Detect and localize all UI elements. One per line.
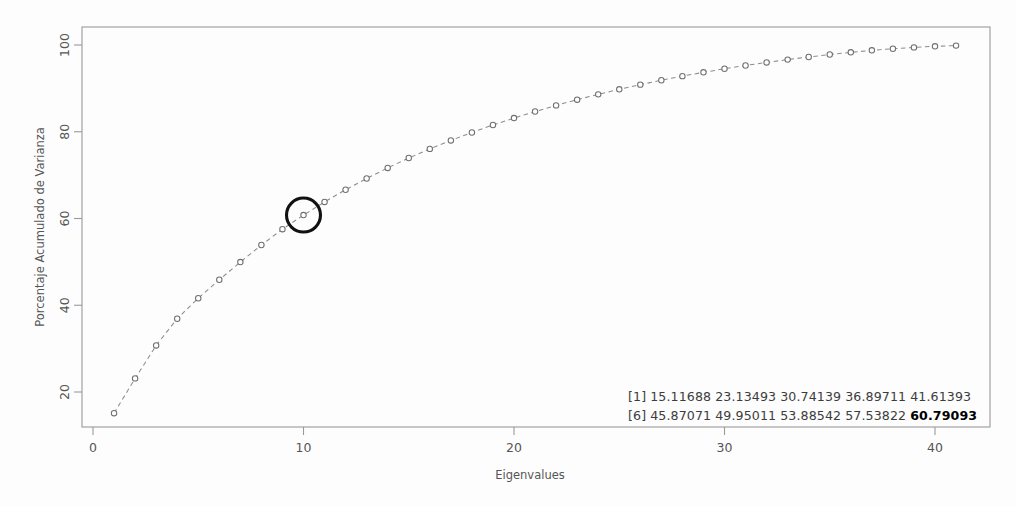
data-point-33 (785, 57, 790, 62)
console-line-2-values: 45.87071 49.95011 53.88542 57.53822 (650, 408, 910, 423)
console-line-2: [6] 45.87071 49.95011 53.88542 57.53822 … (628, 406, 977, 425)
data-point-18 (469, 130, 474, 135)
y-tick-label-60: 60 (57, 211, 72, 227)
data-point-38 (890, 46, 895, 51)
y-axis-tick-labels: 20406080100 (57, 33, 72, 400)
data-point-10 (301, 212, 306, 217)
y-axis-title: Porcentaje Acumulado de Varianza (33, 127, 47, 327)
x-axis-title: Eigenvalues (495, 468, 565, 482)
data-point-39 (911, 45, 916, 50)
y-tick-label-20: 20 (57, 384, 72, 400)
data-point-3 (153, 343, 158, 348)
console-line-2-index: [6] (628, 408, 646, 423)
console-line-1-index: [1] (628, 389, 646, 404)
data-point-41 (953, 43, 958, 48)
data-point-30 (722, 66, 727, 71)
console-line-1: [1] 15.11688 23.13493 30.74139 36.89711 … (628, 387, 977, 406)
data-point-19 (490, 122, 495, 127)
data-point-26 (638, 82, 643, 87)
data-point-11 (322, 199, 327, 204)
data-point-17 (448, 138, 453, 143)
data-point-1 (111, 410, 116, 415)
data-point-23 (574, 97, 579, 102)
data-point-24 (596, 92, 601, 97)
data-point-40 (932, 44, 937, 49)
svg-text:Eigenvalues: Eigenvalues (495, 468, 565, 482)
data-point-27 (659, 78, 664, 83)
data-point-7 (238, 259, 243, 264)
y-tick-label-80: 80 (57, 124, 72, 140)
data-point-2 (132, 376, 137, 381)
data-point-35 (827, 52, 832, 57)
console-line-1-values: 15.11688 23.13493 30.74139 36.89711 41.6… (650, 389, 971, 404)
y-axis-ticks (74, 45, 82, 392)
data-point-13 (364, 176, 369, 181)
x-tick-label-10: 10 (296, 440, 312, 455)
data-point-37 (869, 48, 874, 53)
data-point-4 (175, 316, 180, 321)
data-point-31 (743, 63, 748, 68)
data-point-9 (280, 226, 285, 231)
data-point-14 (385, 165, 390, 170)
data-point-21 (532, 109, 537, 114)
data-point-36 (848, 50, 853, 55)
data-point-5 (196, 296, 201, 301)
y-tick-label-100: 100 (57, 33, 72, 57)
data-point-20 (511, 115, 516, 120)
data-point-22 (553, 103, 558, 108)
scree-plot-figure: 010203040 20406080100 Eigenvalues Porcen… (0, 0, 1016, 506)
console-output-annotation: [1] 15.11688 23.13493 30.74139 36.89711 … (628, 349, 977, 463)
svg-text:Porcentaje Acumulado de Varian: Porcentaje Acumulado de Varianza (33, 127, 47, 327)
x-tick-label-0: 0 (89, 440, 97, 455)
x-tick-label-20: 20 (506, 440, 522, 455)
data-point-12 (343, 187, 348, 192)
y-tick-label-40: 40 (57, 297, 72, 313)
data-point-28 (680, 73, 685, 78)
data-point-8 (259, 242, 264, 247)
data-point-25 (617, 87, 622, 92)
data-point-29 (701, 70, 706, 75)
console-highlight-value: 60.79093 (910, 408, 977, 423)
data-point-6 (217, 277, 222, 282)
data-point-16 (427, 146, 432, 151)
data-point-32 (764, 60, 769, 65)
data-point-34 (806, 54, 811, 59)
data-point-15 (406, 155, 411, 160)
